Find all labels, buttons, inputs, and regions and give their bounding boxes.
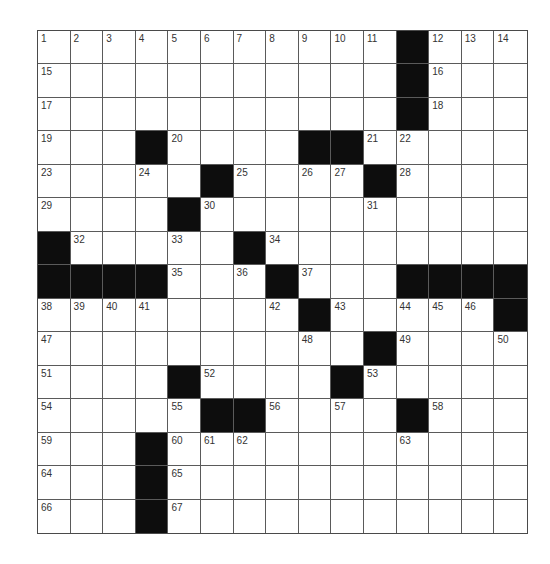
crossword-cell[interactable]: 62 <box>234 433 267 466</box>
crossword-cell[interactable] <box>462 399 495 432</box>
crossword-cell[interactable] <box>494 232 527 265</box>
crossword-cell[interactable]: 65 <box>168 466 201 499</box>
crossword-cell[interactable] <box>429 500 462 533</box>
crossword-cell[interactable]: 5 <box>168 31 201 64</box>
crossword-cell[interactable] <box>266 366 299 399</box>
crossword-cell[interactable] <box>331 265 364 298</box>
crossword-cell[interactable] <box>364 265 397 298</box>
crossword-cell[interactable]: 44 <box>397 299 430 332</box>
crossword-cell[interactable] <box>494 98 527 131</box>
crossword-cell[interactable] <box>136 64 169 97</box>
crossword-cell[interactable] <box>234 299 267 332</box>
crossword-cell[interactable]: 50 <box>494 332 527 365</box>
crossword-cell[interactable] <box>168 299 201 332</box>
crossword-cell[interactable]: 17 <box>38 98 71 131</box>
crossword-cell[interactable] <box>494 500 527 533</box>
crossword-cell[interactable]: 57 <box>331 399 364 432</box>
crossword-cell[interactable] <box>462 131 495 164</box>
crossword-cell[interactable] <box>331 98 364 131</box>
crossword-cell[interactable]: 40 <box>103 299 136 332</box>
crossword-cell[interactable] <box>462 232 495 265</box>
crossword-cell[interactable]: 46 <box>462 299 495 332</box>
crossword-cell[interactable] <box>71 366 104 399</box>
crossword-cell[interactable]: 26 <box>299 165 332 198</box>
crossword-cell[interactable]: 61 <box>201 433 234 466</box>
crossword-cell[interactable] <box>266 466 299 499</box>
crossword-cell[interactable] <box>71 466 104 499</box>
crossword-cell[interactable]: 47 <box>38 332 71 365</box>
crossword-cell[interactable] <box>364 399 397 432</box>
crossword-cell[interactable]: 30 <box>201 198 234 231</box>
crossword-cell[interactable] <box>136 98 169 131</box>
crossword-cell[interactable] <box>201 232 234 265</box>
crossword-cell[interactable]: 11 <box>364 31 397 64</box>
crossword-cell[interactable]: 54 <box>38 399 71 432</box>
crossword-cell[interactable] <box>201 131 234 164</box>
crossword-cell[interactable]: 66 <box>38 500 71 533</box>
crossword-cell[interactable] <box>103 399 136 432</box>
crossword-cell[interactable] <box>201 64 234 97</box>
crossword-cell[interactable] <box>266 198 299 231</box>
crossword-cell[interactable]: 34 <box>266 232 299 265</box>
crossword-cell[interactable] <box>331 198 364 231</box>
crossword-cell[interactable]: 60 <box>168 433 201 466</box>
crossword-cell[interactable]: 63 <box>397 433 430 466</box>
crossword-cell[interactable]: 53 <box>364 366 397 399</box>
crossword-cell[interactable]: 13 <box>462 31 495 64</box>
crossword-cell[interactable] <box>266 433 299 466</box>
crossword-cell[interactable] <box>364 232 397 265</box>
crossword-cell[interactable]: 33 <box>168 232 201 265</box>
crossword-cell[interactable] <box>201 299 234 332</box>
crossword-cell[interactable] <box>494 198 527 231</box>
crossword-cell[interactable] <box>103 198 136 231</box>
crossword-cell[interactable] <box>266 500 299 533</box>
crossword-cell[interactable] <box>462 64 495 97</box>
crossword-cell[interactable] <box>234 198 267 231</box>
crossword-cell[interactable] <box>299 466 332 499</box>
crossword-cell[interactable]: 48 <box>299 332 332 365</box>
crossword-cell[interactable] <box>103 366 136 399</box>
crossword-cell[interactable] <box>136 366 169 399</box>
crossword-cell[interactable] <box>136 399 169 432</box>
crossword-cell[interactable] <box>71 399 104 432</box>
crossword-cell[interactable] <box>397 232 430 265</box>
crossword-cell[interactable]: 36 <box>234 265 267 298</box>
crossword-cell[interactable]: 55 <box>168 399 201 432</box>
crossword-cell[interactable] <box>201 265 234 298</box>
crossword-cell[interactable] <box>136 332 169 365</box>
crossword-cell[interactable]: 3 <box>103 31 136 64</box>
crossword-cell[interactable] <box>299 232 332 265</box>
crossword-cell[interactable] <box>168 165 201 198</box>
crossword-cell[interactable] <box>266 332 299 365</box>
crossword-cell[interactable]: 28 <box>397 165 430 198</box>
crossword-cell[interactable] <box>397 366 430 399</box>
crossword-cell[interactable] <box>462 500 495 533</box>
crossword-cell[interactable] <box>168 64 201 97</box>
crossword-cell[interactable] <box>234 131 267 164</box>
crossword-cell[interactable] <box>299 98 332 131</box>
crossword-cell[interactable] <box>266 98 299 131</box>
crossword-cell[interactable] <box>266 165 299 198</box>
crossword-cell[interactable] <box>397 198 430 231</box>
crossword-cell[interactable] <box>331 332 364 365</box>
crossword-cell[interactable]: 35 <box>168 265 201 298</box>
crossword-cell[interactable] <box>494 466 527 499</box>
crossword-cell[interactable]: 23 <box>38 165 71 198</box>
crossword-cell[interactable] <box>462 366 495 399</box>
crossword-cell[interactable] <box>364 433 397 466</box>
crossword-cell[interactable]: 18 <box>429 98 462 131</box>
crossword-cell[interactable]: 25 <box>234 165 267 198</box>
crossword-cell[interactable] <box>71 332 104 365</box>
crossword-cell[interactable] <box>494 64 527 97</box>
crossword-cell[interactable] <box>397 466 430 499</box>
crossword-cell[interactable]: 15 <box>38 64 71 97</box>
crossword-cell[interactable]: 27 <box>331 165 364 198</box>
crossword-cell[interactable] <box>71 500 104 533</box>
crossword-cell[interactable] <box>136 232 169 265</box>
crossword-cell[interactable]: 58 <box>429 399 462 432</box>
crossword-cell[interactable]: 9 <box>299 31 332 64</box>
crossword-cell[interactable] <box>462 433 495 466</box>
crossword-cell[interactable] <box>234 332 267 365</box>
crossword-cell[interactable]: 1 <box>38 31 71 64</box>
crossword-cell[interactable] <box>494 165 527 198</box>
